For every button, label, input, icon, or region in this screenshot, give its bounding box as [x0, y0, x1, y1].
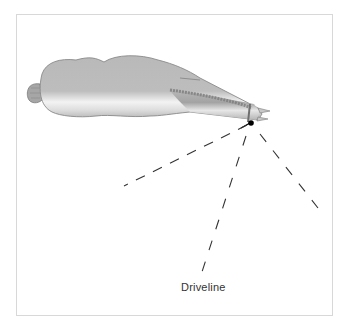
driveline-label: Driveline [181, 281, 226, 293]
left-dashed-line [124, 125, 247, 186]
driveline-dashed-line [200, 136, 246, 278]
animal-body [40, 56, 270, 122]
driveline-diagram [0, 0, 350, 333]
right-dashed-line [260, 134, 318, 208]
